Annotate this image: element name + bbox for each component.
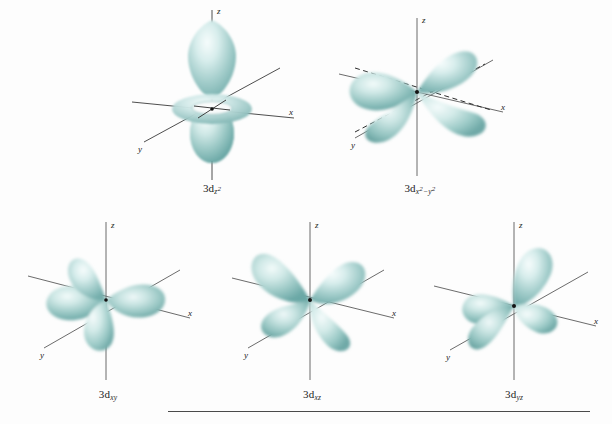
nucleus-point xyxy=(415,90,419,94)
axis-label-y: y xyxy=(350,140,355,150)
orbital-label-sub: x2−y2 xyxy=(416,187,436,196)
axis-label-x: x xyxy=(593,316,598,326)
orbital-3dx2-y2-drawing: z x y xyxy=(325,12,515,182)
nucleus-point xyxy=(308,298,312,302)
bottom-horizontal-rule xyxy=(168,411,590,412)
lobe-4 xyxy=(310,300,351,351)
nucleus-point xyxy=(210,107,214,111)
lobe-group-3dx2y2 xyxy=(350,51,486,142)
orbital-label-sub: z2 xyxy=(214,187,221,196)
lobe-3 xyxy=(261,300,310,337)
axis-label-z: z xyxy=(216,6,221,16)
orbital-label-sub: xz xyxy=(314,393,321,402)
lobe-plus-y xyxy=(417,51,477,93)
axis-label-y: y xyxy=(243,350,248,360)
axis-label-x: x xyxy=(391,308,396,318)
orbital-label-prefix: 3d xyxy=(99,388,110,400)
d-orbital-figure: z x y 3dz2 xyxy=(0,0,612,424)
nucleus-point xyxy=(512,304,516,308)
lobe-z-positive xyxy=(188,20,236,100)
orbital-3dx2-y2: z x y 3dx2−y2 xyxy=(325,12,515,202)
orbital-3dz2: z x y 3dz2 xyxy=(122,2,302,202)
orbital-label-prefix: 3d xyxy=(505,388,516,400)
nucleus-point xyxy=(104,298,108,302)
axis-label-x: x xyxy=(187,308,192,318)
orbital-3dxy-drawing: z x y xyxy=(18,218,198,388)
axis-label-y: y xyxy=(137,144,142,154)
axis-label-z: z xyxy=(421,15,426,25)
orbital-label-3dx2-y2: 3dx2−y2 xyxy=(325,182,515,196)
lobe-1 xyxy=(513,248,553,306)
axis-label-z: z xyxy=(518,220,523,230)
orbital-label-3dz2: 3dz2 xyxy=(122,182,302,196)
orbital-3dxy: z x y 3dxy xyxy=(18,218,198,408)
axis-label-z: z xyxy=(110,220,115,230)
axis-label-y: y xyxy=(445,352,450,362)
orbital-label-3dyz: 3dyz xyxy=(424,388,604,402)
axis-label-y: y xyxy=(39,350,44,360)
lobe-3 xyxy=(106,284,165,317)
orbital-label-prefix: 3d xyxy=(303,388,314,400)
orbital-label-3dxz: 3dxz xyxy=(222,388,402,402)
orbital-label-prefix: 3d xyxy=(404,182,415,194)
orbital-3dxz: z x y 3dxz xyxy=(222,218,402,408)
orbital-label-3dxy: 3dxy xyxy=(18,388,198,402)
orbital-3dyz-drawing: z x y xyxy=(424,218,604,388)
orbital-3dyz: z x y 3dyz xyxy=(424,218,604,408)
lobe-4 xyxy=(514,304,557,334)
lobe-2 xyxy=(310,262,365,304)
orbital-label-sub: xy xyxy=(110,393,117,402)
orbital-3dz2-drawing: z x y xyxy=(122,2,302,182)
axis-label-z: z xyxy=(314,220,319,230)
lobe-group-3dyz xyxy=(462,248,557,350)
axis-label-x: x xyxy=(500,102,505,112)
orbital-3dxz-drawing: z x y xyxy=(222,218,402,388)
orbital-label-prefix: 3d xyxy=(203,182,214,194)
orbital-label-sub: yz xyxy=(516,393,523,402)
lobe-1 xyxy=(251,254,310,303)
axis-label-x: x xyxy=(288,107,293,117)
lobe-plus-x xyxy=(417,92,486,137)
